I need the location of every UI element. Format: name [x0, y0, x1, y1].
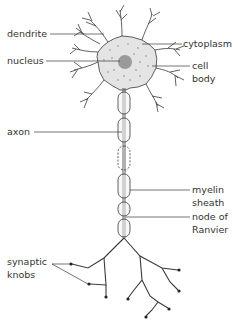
nucleus	[118, 55, 132, 69]
myelin-segment	[118, 92, 130, 114]
label-ranvier: Ranvier	[192, 223, 228, 237]
label-sheath: sheath	[192, 196, 224, 210]
myelin-segment	[118, 219, 130, 237]
label-nucleus: nucleus	[7, 54, 44, 68]
label-knobs: knobs	[7, 268, 35, 282]
label-axon: axon	[7, 125, 30, 139]
label-synaptic: synaptic	[7, 255, 47, 269]
myelin-segment	[118, 118, 130, 142]
label-cell: cell	[192, 59, 208, 73]
myelin-segment-dashed	[118, 146, 130, 170]
label-dendrite: dendrite	[7, 27, 47, 41]
label-myelin: myelin	[192, 183, 224, 197]
myelin-segment	[118, 202, 130, 216]
label-cytoplasm: cytoplasm	[183, 37, 232, 51]
axon-terminals	[72, 238, 178, 316]
myelin-segment	[118, 174, 130, 198]
label-node-of: node of	[192, 210, 228, 224]
label-body: body	[192, 72, 216, 86]
